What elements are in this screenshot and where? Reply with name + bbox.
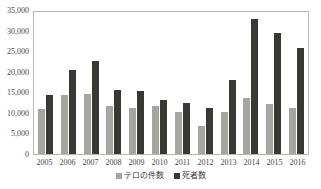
bar-group: [125, 12, 148, 154]
bar-incidents-2015: [266, 104, 273, 154]
x-tick-label: 2016: [286, 157, 309, 169]
x-axis: 2005200620072008200920102011201220132014…: [33, 157, 309, 169]
bar-incidents-2005: [38, 109, 45, 154]
bar-incidents-2009: [129, 108, 136, 154]
y-tick-label: 25,000: [7, 48, 29, 56]
y-tick-label: 0: [25, 151, 29, 159]
x-tick-label: 2011: [171, 157, 194, 169]
x-tick-label: 2015: [263, 157, 286, 169]
bar-incidents-2011: [175, 112, 182, 154]
legend-item: テロの件数: [116, 171, 164, 180]
bar-group: [34, 12, 57, 154]
bar-group: [80, 12, 103, 154]
bar-deaths-2014: [251, 19, 258, 154]
legend-swatch-icon: [116, 173, 122, 179]
bar-incidents-2013: [221, 112, 228, 154]
bar-incidents-2010: [152, 106, 159, 154]
bar-incidents-2014: [243, 98, 250, 154]
bar-deaths-2009: [137, 91, 144, 154]
y-tick-label: 5,000: [11, 130, 29, 138]
legend-label: テロの件数: [124, 171, 164, 180]
x-tick-label: 2012: [194, 157, 217, 169]
x-tick-label: 2013: [217, 157, 240, 169]
bar-deaths-2006: [69, 70, 76, 154]
bar-group: [148, 12, 171, 154]
bar-deaths-2008: [114, 90, 121, 154]
legend-label: 死者数: [182, 171, 206, 180]
bar-deaths-2005: [46, 95, 53, 154]
bar-groups: [34, 12, 308, 154]
y-tick-label: 20,000: [7, 69, 29, 77]
x-tick-label: 2007: [79, 157, 102, 169]
plot-inner: [34, 12, 308, 154]
bar-group: [194, 12, 217, 154]
bar-group: [239, 12, 262, 154]
bar-group: [102, 12, 125, 154]
y-tick-label: 35,000: [7, 7, 29, 15]
bar-deaths-2016: [297, 48, 304, 154]
bar-group: [171, 12, 194, 154]
bar-group: [262, 12, 285, 154]
y-axis: 35,00030,00025,00020,00015,00010,0005,00…: [0, 11, 33, 155]
y-tick-label: 10,000: [7, 110, 29, 118]
bar-deaths-2013: [229, 80, 236, 154]
bar-incidents-2012: [198, 126, 205, 154]
bar-deaths-2011: [183, 103, 190, 154]
bar-group: [217, 12, 240, 154]
x-tick-label: 2014: [240, 157, 263, 169]
x-tick-label: 2005: [33, 157, 56, 169]
chart-legend: テロの件数死者数: [0, 171, 321, 180]
bar-deaths-2015: [274, 33, 281, 154]
legend-item: 死者数: [174, 171, 206, 180]
plot-area: [33, 11, 309, 155]
y-tick-label: 15,000: [7, 89, 29, 97]
bar-incidents-2016: [289, 108, 296, 154]
bar-deaths-2012: [206, 108, 213, 154]
chart-figure: 35,00030,00025,00020,00015,00010,0005,00…: [0, 0, 321, 189]
bar-incidents-2008: [106, 106, 113, 154]
y-tick-label: 30,000: [7, 28, 29, 36]
chart-title: [0, 0, 321, 3]
x-tick-label: 2010: [148, 157, 171, 169]
bar-deaths-2010: [160, 100, 167, 154]
bar-group: [285, 12, 308, 154]
bar-group: [57, 12, 80, 154]
bar-incidents-2007: [84, 94, 91, 154]
bar-incidents-2006: [61, 95, 68, 154]
bar-deaths-2007: [92, 61, 99, 154]
x-tick-label: 2008: [102, 157, 125, 169]
x-tick-label: 2009: [125, 157, 148, 169]
legend-swatch-icon: [174, 173, 180, 179]
x-tick-label: 2006: [56, 157, 79, 169]
